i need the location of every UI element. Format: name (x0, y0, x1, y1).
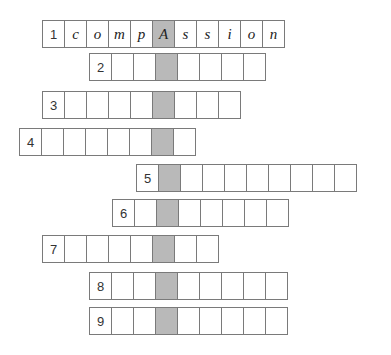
answer-cell[interactable] (129, 128, 152, 156)
letter-input[interactable] (201, 200, 222, 226)
answer-cell[interactable] (243, 307, 266, 335)
answer-cell[interactable] (85, 128, 108, 156)
answer-cell[interactable] (41, 128, 64, 156)
letter-input[interactable] (244, 273, 265, 299)
letter-input[interactable] (87, 236, 108, 262)
answer-cell[interactable] (130, 235, 153, 263)
letter-input[interactable] (131, 236, 152, 262)
answer-cell-shaded[interactable] (151, 128, 174, 156)
answer-cell[interactable] (268, 164, 291, 192)
letter-input[interactable] (159, 165, 180, 191)
letter-input[interactable] (222, 308, 243, 334)
answer-cell[interactable] (180, 164, 203, 192)
letter-input[interactable] (109, 92, 130, 118)
answer-cell[interactable] (265, 307, 288, 335)
letter-input[interactable] (130, 129, 151, 155)
answer-cell[interactable]: o (86, 20, 109, 48)
letter-input[interactable] (112, 308, 133, 334)
answer-cell[interactable] (134, 199, 157, 227)
answer-cell[interactable]: p (130, 20, 153, 48)
letter-input[interactable] (152, 129, 173, 155)
letter-input[interactable] (112, 54, 133, 80)
letter-input[interactable] (197, 92, 218, 118)
answer-cell-shaded[interactable] (156, 199, 179, 227)
answer-cell[interactable]: o (240, 20, 263, 48)
answer-cell[interactable] (111, 307, 134, 335)
answer-cell[interactable] (107, 128, 130, 156)
answer-cell[interactable] (174, 235, 197, 263)
answer-cell[interactable]: m (108, 20, 131, 48)
letter-input[interactable] (335, 165, 356, 191)
answer-cell[interactable] (174, 91, 197, 119)
letter-input[interactable] (222, 273, 243, 299)
answer-cell[interactable] (177, 307, 200, 335)
answer-cell[interactable] (178, 199, 201, 227)
letter-input[interactable] (179, 200, 200, 226)
answer-cell[interactable] (111, 53, 134, 81)
letter-input[interactable] (291, 165, 312, 191)
letter-input[interactable] (134, 54, 155, 80)
answer-cell[interactable] (111, 272, 134, 300)
answer-cell[interactable] (266, 199, 289, 227)
answer-cell[interactable] (246, 164, 269, 192)
answer-cell[interactable] (290, 164, 313, 192)
answer-cell[interactable] (222, 199, 245, 227)
letter-input[interactable] (175, 92, 196, 118)
answer-cell[interactable] (64, 235, 87, 263)
answer-cell[interactable] (108, 91, 131, 119)
letter-input[interactable] (203, 165, 224, 191)
letter-input[interactable] (134, 273, 155, 299)
letter-input[interactable] (247, 165, 268, 191)
letter-input[interactable] (181, 165, 202, 191)
letter-input[interactable] (267, 200, 288, 226)
letter-input[interactable] (313, 165, 334, 191)
letter-input[interactable] (153, 236, 174, 262)
letter-input[interactable] (156, 308, 177, 334)
letter-input[interactable] (197, 236, 218, 262)
answer-cell[interactable] (199, 307, 222, 335)
letter-input[interactable] (266, 308, 287, 334)
letter-input[interactable] (225, 165, 246, 191)
letter-input[interactable] (175, 236, 196, 262)
answer-cell[interactable] (199, 272, 222, 300)
answer-cell[interactable] (243, 272, 266, 300)
answer-cell-shaded[interactable] (155, 53, 178, 81)
answer-cell[interactable]: s (196, 20, 219, 48)
letter-input[interactable] (65, 236, 86, 262)
answer-cell[interactable] (133, 307, 156, 335)
answer-cell[interactable] (196, 91, 219, 119)
answer-cell-shaded[interactable] (152, 91, 175, 119)
letter-input[interactable] (65, 92, 86, 118)
letter-input[interactable] (134, 308, 155, 334)
letter-input[interactable] (178, 273, 199, 299)
answer-cell[interactable] (244, 199, 267, 227)
answer-cell[interactable] (108, 235, 131, 263)
answer-cell[interactable] (86, 91, 109, 119)
letter-input[interactable] (200, 54, 221, 80)
answer-cell[interactable] (265, 272, 288, 300)
letter-input[interactable] (244, 308, 265, 334)
letter-input[interactable] (135, 200, 156, 226)
answer-cell[interactable] (86, 235, 109, 263)
letter-input[interactable] (178, 54, 199, 80)
letter-input[interactable] (174, 129, 195, 155)
letter-input[interactable] (64, 129, 85, 155)
answer-cell[interactable]: n (262, 20, 285, 48)
answer-cell[interactable] (199, 53, 222, 81)
letter-input[interactable] (131, 92, 152, 118)
answer-cell[interactable]: s (174, 20, 197, 48)
answer-cell-shaded[interactable]: A (152, 20, 175, 48)
answer-cell[interactable] (63, 128, 86, 156)
letter-input[interactable] (153, 92, 174, 118)
answer-cell[interactable] (221, 272, 244, 300)
letter-input[interactable] (219, 92, 240, 118)
letter-input[interactable] (269, 165, 290, 191)
answer-cell[interactable] (334, 164, 357, 192)
answer-cell[interactable] (221, 307, 244, 335)
answer-cell[interactable] (130, 91, 153, 119)
answer-cell[interactable] (64, 91, 87, 119)
letter-input[interactable] (200, 308, 221, 334)
letter-input[interactable] (156, 54, 177, 80)
letter-input[interactable] (244, 54, 265, 80)
answer-cell[interactable] (200, 199, 223, 227)
